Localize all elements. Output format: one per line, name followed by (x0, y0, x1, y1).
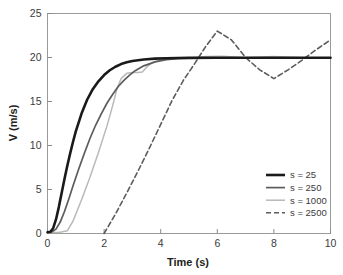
chart-figure: 0246810 0510152025 Time (s) V (m/s) s = … (0, 0, 343, 275)
legend-label: s = 1000 (290, 195, 327, 206)
y-tick-label: 0 (36, 227, 42, 239)
x-tick-label: 10 (325, 237, 337, 249)
y-tick-label: 15 (30, 95, 42, 107)
velocity-time-line-chart: 0246810 0510152025 Time (s) V (m/s) s = … (0, 0, 343, 275)
legend-label: s = 2500 (290, 207, 327, 218)
legend-label: s = 25 (290, 169, 316, 180)
y-tick-label: 10 (30, 139, 42, 151)
x-tick-label: 6 (214, 237, 220, 249)
x-tick-label: 2 (101, 237, 107, 249)
legend-label: s = 250 (290, 182, 321, 193)
y-axis-title: V (m/s) (7, 104, 19, 141)
x-axis-title: Time (s) (167, 256, 209, 268)
y-tick-label: 5 (36, 183, 42, 195)
y-tick-label: 20 (30, 51, 42, 63)
y-tick-label: 25 (30, 7, 42, 19)
x-tick-label: 8 (271, 237, 277, 249)
x-tick-label: 4 (158, 237, 164, 249)
x-tick-label: 0 (45, 237, 51, 249)
